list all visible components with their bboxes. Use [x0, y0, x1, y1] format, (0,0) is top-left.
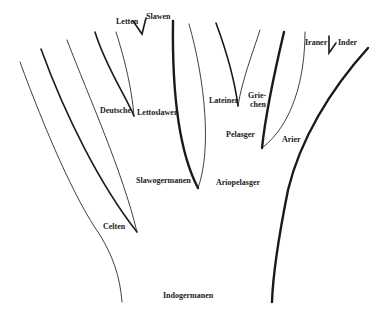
- branch-arier: [262, 32, 305, 148]
- branch-pelasger: [262, 32, 284, 148]
- label-celten: Celten: [103, 222, 125, 231]
- branch-lettoslawen: [116, 32, 134, 116]
- label-slawen: Slawen: [146, 12, 170, 21]
- branch-ariopelasger-left: [173, 21, 198, 188]
- tree-branches: [0, 0, 384, 318]
- label-slawogermanen: Slawogermanen: [136, 176, 191, 185]
- label-griechen-line2: chen: [250, 100, 266, 109]
- branch-deutsche: [95, 32, 134, 116]
- label-ariopelasger: Ariopelasger: [216, 178, 260, 187]
- label-arier: Arier: [282, 135, 301, 144]
- label-lateiner: Lateiner: [209, 96, 238, 105]
- branch-lateiner: [216, 23, 238, 106]
- branch-slawogermanen-left: [41, 49, 137, 232]
- label-pelasger: Pelasger: [226, 130, 255, 139]
- branch-iraner-inder: [329, 36, 336, 53]
- label-iraner: Iraner: [305, 38, 327, 47]
- tree-diagram: Letten Slawen Iraner Inder Deutsche Lett…: [0, 0, 384, 318]
- label-deutsche: Deutsche: [100, 106, 131, 115]
- label-griechen-line1: Grie-: [248, 91, 266, 100]
- label-letten: Letten: [116, 17, 138, 26]
- branch-celten: [20, 62, 122, 302]
- label-indogermanen: Indogermanen: [163, 291, 213, 300]
- label-lettoslawen: Lettoslawen: [137, 108, 178, 117]
- label-inder: Inder: [338, 38, 357, 47]
- branch-ariopelasger-right: [189, 24, 206, 188]
- branch-main-right: [272, 48, 368, 302]
